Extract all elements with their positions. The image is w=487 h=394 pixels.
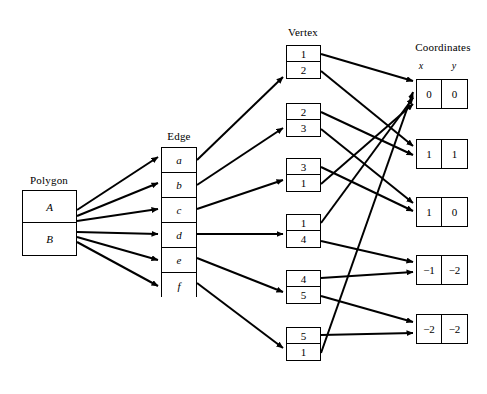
link-polygon-a-to-edge-b: [77, 183, 158, 216]
vertex-box-2-top[interactable]: 2: [287, 104, 320, 120]
coordinates-box-4-x[interactable]: −1: [417, 256, 442, 284]
link-vertex-5-bottom-to-coordinates-box-5: [321, 296, 413, 322]
coordinates-box-5-x[interactable]: −2: [417, 315, 442, 343]
link-vertex-3-bottom-to-coordinates-box-1: [321, 104, 413, 184]
link-polygon-a-to-edge-a: [77, 157, 158, 210]
vertex-column-title: Vertex: [268, 26, 338, 38]
coordinates-x-header: x: [408, 60, 434, 71]
vertex-box-4-top[interactable]: 1: [287, 215, 320, 231]
link-edge-e-to-vertex-box-5: [197, 258, 283, 292]
vertex-box-5-bottom[interactable]: 5: [287, 287, 320, 303]
coordinates-box-1-y[interactable]: 0: [442, 80, 467, 108]
link-vertex-2-bottom-to-coordinates-box-3: [321, 129, 413, 203]
coordinates-column-title: Coordinates: [405, 41, 481, 53]
link-edge-a-to-vertex-box-1: [197, 77, 283, 160]
link-vertex-5-top-to-coordinates-box-4: [321, 272, 413, 278]
vertex-box-5-top[interactable]: 4: [287, 271, 320, 287]
link-polygon-b-to-edge-e: [77, 237, 158, 260]
link-edge-f-to-vertex-box-6: [197, 283, 283, 348]
coordinates-box-3-x[interactable]: 1: [417, 198, 442, 226]
coordinates-box-5-y[interactable]: −2: [442, 315, 467, 343]
vertex-box-4-bottom[interactable]: 4: [287, 231, 320, 247]
polygon-column-title: Polygon: [13, 174, 85, 186]
link-polygon-b-to-edge-d: [77, 232, 158, 234]
vertex-box-1-top[interactable]: 1: [287, 46, 320, 62]
vertex-box-2-bottom[interactable]: 3: [287, 120, 320, 136]
coordinates-box-3-y[interactable]: 0: [442, 198, 467, 226]
link-vertex-1-bottom-to-coordinates-box-2: [321, 71, 413, 146]
vertex-box-2: 2 3: [286, 103, 321, 137]
vertex-box-6-bottom[interactable]: 1: [287, 344, 320, 360]
link-vertex-6-bottom-to-coordinates-box-1: [321, 92, 413, 353]
edge-column-title: Edge: [144, 130, 214, 142]
coordinates-box-2-x[interactable]: 1: [417, 140, 442, 168]
edge-row-b[interactable]: b: [162, 173, 196, 198]
link-polygon-a-to-edge-c: [77, 209, 158, 221]
polygon-row-a[interactable]: A: [23, 191, 76, 223]
link-vertex-3-top-to-coordinates-box-3: [321, 167, 413, 211]
vertex-box-5: 4 5: [286, 270, 321, 304]
edge-row-a[interactable]: a: [162, 148, 196, 173]
edge-row-c[interactable]: c: [162, 198, 196, 223]
edge-row-e[interactable]: e: [162, 248, 196, 273]
coordinates-box-2: 1 1: [416, 139, 468, 169]
coordinates-box-1: 0 0: [416, 79, 468, 109]
edge-row-d[interactable]: d: [162, 223, 196, 248]
vertex-box-3-bottom[interactable]: 1: [287, 175, 320, 191]
vertex-box-1-bottom[interactable]: 2: [287, 62, 320, 78]
relational-diagram: Polygon Edge Vertex Coordinates x y A B …: [0, 0, 487, 394]
link-vertex-2-top-to-coordinates-box-2: [321, 112, 413, 155]
coordinates-box-1-x[interactable]: 0: [417, 80, 442, 108]
coordinates-box-2-y[interactable]: 1: [442, 140, 467, 168]
vertex-box-4: 1 4: [286, 214, 321, 248]
edge-table: a b c d e f: [161, 147, 197, 297]
polygon-table: A B: [22, 190, 77, 256]
vertex-box-3-top[interactable]: 3: [287, 159, 320, 175]
link-vertex-4-bottom-to-coordinates-box-4: [321, 241, 413, 262]
polygon-row-b[interactable]: B: [23, 223, 76, 255]
vertex-box-3: 3 1: [286, 158, 321, 192]
edge-row-f[interactable]: f: [162, 273, 196, 298]
link-edge-c-to-vertex-box-3: [197, 180, 283, 209]
vertex-box-6-top[interactable]: 5: [287, 328, 320, 344]
vertex-box-1: 1 2: [286, 45, 321, 79]
coordinates-box-3: 1 0: [416, 197, 468, 227]
vertex-box-6: 5 1: [286, 327, 321, 361]
coordinates-box-4: −1 −2: [416, 255, 468, 285]
link-vertex-6-top-to-coordinates-box-5: [321, 333, 413, 335]
link-polygon-b-to-edge-f: [77, 242, 158, 286]
coordinates-box-4-y[interactable]: −2: [442, 256, 467, 284]
coordinates-box-5: −2 −2: [416, 314, 468, 344]
link-vertex-4-top-to-coordinates-box-1: [321, 98, 413, 223]
link-vertex-1-top-to-coordinates-box-1: [321, 54, 413, 81]
coordinates-y-header: y: [441, 60, 467, 71]
